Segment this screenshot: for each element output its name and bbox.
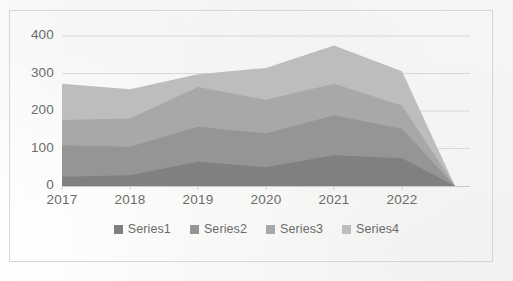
legend-swatch-series3-icon [266,225,275,234]
legend-item-series2[interactable]: Series2 [190,222,247,236]
x-axis-tick-label-2022: 2022 [374,192,430,207]
x-axis-tick-label-2017: 2017 [34,192,90,207]
y-axis-tick-label-200: 200 [14,102,54,117]
x-axis-tick-label-2019: 2019 [170,192,226,207]
x-axis-tick-label-2018: 2018 [102,192,158,207]
legend-label: Series3 [280,222,323,236]
area-series-group [62,45,455,186]
legend-item-series3[interactable]: Series3 [266,222,323,236]
y-axis-tick-label-300: 300 [14,65,54,80]
x-axis-tick-label-2020: 2020 [238,192,294,207]
legend-item-series4[interactable]: Series4 [342,222,399,236]
x-axis-tick-label-2021: 2021 [306,192,362,207]
legend-swatch-series4-icon [342,225,351,234]
legend-label: Series4 [356,222,399,236]
y-axis-tick-label-400: 400 [14,27,54,42]
legend-label: Series1 [128,222,171,236]
legend-swatch-series2-icon [190,225,199,234]
chart-legend: Series1Series2Series3Series4 [0,222,513,236]
stacked-area-chart [0,0,513,281]
y-axis-tick-label-0: 0 [14,177,54,192]
legend-item-series1[interactable]: Series1 [114,222,171,236]
legend-swatch-series1-icon [114,225,123,234]
legend-label: Series2 [204,222,247,236]
y-axis-tick-label-100: 100 [14,140,54,155]
